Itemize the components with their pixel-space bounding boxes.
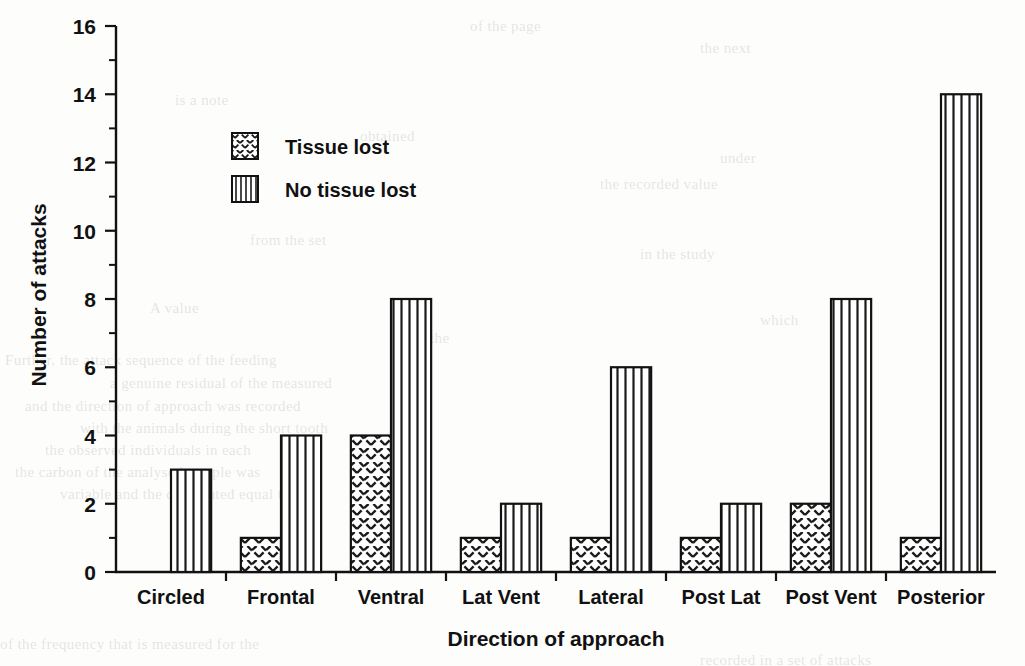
y-tick-label: 0	[84, 561, 96, 584]
bar	[241, 538, 281, 572]
y-axis-title: Number of attacks	[27, 203, 50, 386]
y-tick-label: 2	[84, 493, 96, 516]
y-tick-label: 4	[84, 425, 96, 448]
category-label: Ventral	[358, 586, 425, 608]
bar	[831, 299, 871, 572]
bar	[941, 94, 981, 572]
legend-label-tissue-lost: Tissue lost	[285, 136, 389, 158]
chart-figure: of the pagethe nextis a noteobtainedunde…	[0, 0, 1025, 666]
bar	[611, 367, 651, 572]
bar	[571, 538, 611, 572]
bar	[791, 504, 831, 572]
x-axis-ticks	[226, 572, 886, 581]
bar	[391, 299, 431, 572]
y-tick-label: 6	[84, 356, 96, 379]
category-label: Lat Vent	[462, 586, 540, 608]
bar	[901, 538, 941, 572]
y-axis-ticks: 0246810121416	[73, 15, 116, 584]
bars-group	[171, 94, 981, 572]
bar	[721, 504, 761, 572]
category-label: Frontal	[247, 586, 315, 608]
category-label: Post Lat	[682, 586, 761, 608]
y-tick-label: 10	[73, 220, 96, 243]
bar	[171, 470, 211, 572]
x-axis-title: Direction of approach	[447, 627, 664, 650]
category-label: Post Vent	[785, 586, 876, 608]
bar	[681, 538, 721, 572]
category-labels: CircledFrontalVentralLat VentLateralPost…	[137, 586, 985, 608]
category-label: Circled	[137, 586, 205, 608]
bar	[281, 436, 321, 573]
y-tick-label: 12	[73, 152, 96, 175]
bar-chart: Number of attacks Direction of approach …	[0, 0, 1025, 666]
legend-swatch-tissue-lost	[232, 133, 258, 159]
y-tick-label: 14	[73, 83, 97, 106]
y-tick-label: 16	[73, 15, 96, 38]
bar	[461, 538, 501, 572]
category-label: Lateral	[578, 586, 644, 608]
legend-swatch-no-tissue-lost	[232, 176, 258, 202]
legend-label-no-tissue-lost: No tissue lost	[285, 179, 416, 201]
legend: Tissue lost No tissue lost	[232, 133, 416, 202]
bar	[501, 504, 541, 572]
bar	[351, 436, 391, 573]
y-tick-label: 8	[84, 288, 96, 311]
category-label: Posterior	[897, 586, 985, 608]
